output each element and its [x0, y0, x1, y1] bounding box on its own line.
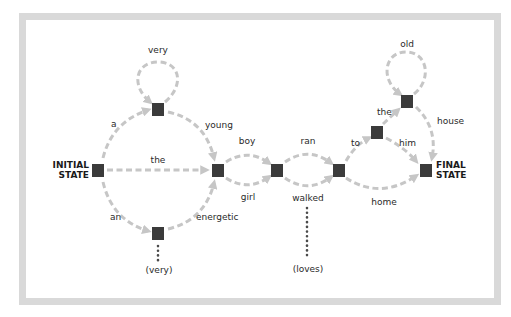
- edge-house: [416, 107, 433, 158]
- edge-label-the: the: [151, 155, 166, 165]
- edge-very-loop: [138, 62, 178, 102]
- node-adjective-loop: [152, 103, 164, 116]
- ellipsis-label-loves: (loves): [293, 264, 324, 274]
- node-an: [152, 227, 164, 240]
- node-initial-state: [92, 164, 104, 177]
- edge-label-girl: girl: [241, 192, 255, 202]
- edge-walked: [285, 177, 331, 186]
- edge-label-to: to: [351, 138, 361, 148]
- edge-label-boy: boy: [239, 136, 256, 146]
- edge-ran: [285, 154, 331, 163]
- edge-label-the-upper: the: [377, 107, 392, 117]
- edge-label-house: house: [437, 116, 465, 126]
- ellipsis-label-very: (very): [146, 265, 173, 275]
- edge-old-loop: [387, 52, 425, 94]
- fsa-diagram: INITIAL STATE FINAL STATE a very young t…: [0, 0, 511, 317]
- edge-label-very: very: [148, 45, 169, 55]
- edge-a: [103, 110, 148, 158]
- edge-label-a: a: [111, 119, 117, 129]
- edge-girl: [226, 177, 269, 185]
- edge-boy: [226, 155, 269, 163]
- edge-home: [346, 176, 416, 189]
- node-final-state: [420, 164, 432, 177]
- node-verb: [271, 164, 283, 177]
- final-state-label-line2: STATE: [436, 170, 466, 180]
- edge-label-old: old: [400, 39, 414, 49]
- node-the: [401, 95, 413, 108]
- edge-label-him: him: [399, 138, 416, 148]
- edge-label-home: home: [371, 197, 397, 207]
- initial-state-label-line2: STATE: [59, 170, 89, 180]
- edge-an: [103, 182, 148, 231]
- edge-label-walked: walked: [292, 193, 324, 203]
- node-preposition: [333, 164, 345, 177]
- final-state-label-line1: FINAL: [436, 160, 466, 170]
- edge-young: [168, 112, 214, 158]
- edge-label-energetic: energetic: [196, 212, 239, 222]
- edge-label-young: young: [205, 120, 233, 130]
- node-to: [371, 126, 383, 139]
- edge-label-ran: ran: [301, 136, 316, 146]
- initial-state-label-line1: INITIAL: [53, 160, 90, 170]
- node-noun: [212, 164, 224, 177]
- edge-energetic: [168, 183, 214, 229]
- edge-label-an: an: [110, 212, 121, 222]
